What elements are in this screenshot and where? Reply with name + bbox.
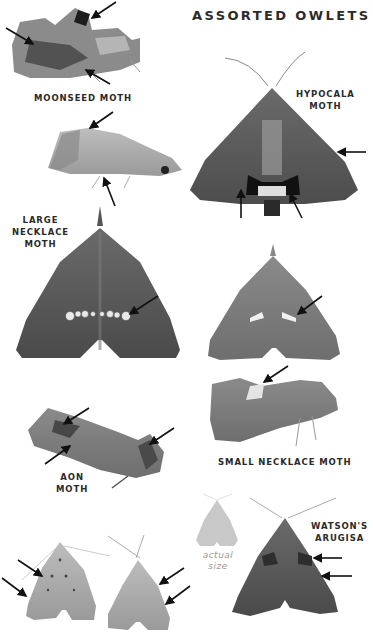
large-necklace-label-line-1: LARGE [12, 214, 69, 226]
owlet-pair-image [2, 535, 190, 630]
page-title: ASSORTED OWLETS [192, 8, 371, 23]
aon-moth-image [28, 408, 174, 488]
field-guide-page: ASSORTED OWLETS MOONSEED MOTH HYPOCALA M… [0, 0, 373, 636]
watsons-label-line-1: WATSON'S [311, 520, 368, 532]
actual-size-line-1: actual [200, 550, 236, 561]
small-necklace-moth-image [208, 244, 340, 446]
moonseed-moth-image [6, 2, 140, 84]
watsons-arugisa-image [232, 498, 352, 616]
actual-size-silhouette [196, 494, 238, 546]
aon-moth-label: AON MOTH [56, 471, 88, 495]
hypocala-moth-label: HYPOCALA MOTH [296, 88, 355, 112]
watsons-label-line-2: ARUGISA [311, 532, 368, 544]
small-necklace-moth-label: SMALL NECKLACE MOTH [218, 456, 351, 468]
hypocala-label-line-2: MOTH [296, 100, 355, 112]
actual-size-line-2: size [200, 561, 236, 572]
hypocala-label-line-1: HYPOCALA [296, 88, 355, 100]
large-necklace-label-line-2: NECKLACE [12, 226, 69, 238]
large-necklace-label-line-3: MOTH [12, 238, 69, 250]
hypocala-moth-image [190, 52, 366, 218]
actual-size-caption: actual size [200, 550, 236, 572]
aon-label-line-2: MOTH [56, 483, 88, 495]
aon-label-line-1: AON [56, 471, 88, 483]
watsons-arugisa-label: WATSON'S ARUGISA [311, 520, 368, 544]
owlet-side-view-image [48, 112, 182, 206]
moonseed-moth-label: MOONSEED MOTH [34, 92, 132, 104]
large-necklace-moth-label: LARGE NECKLACE MOTH [12, 214, 69, 250]
